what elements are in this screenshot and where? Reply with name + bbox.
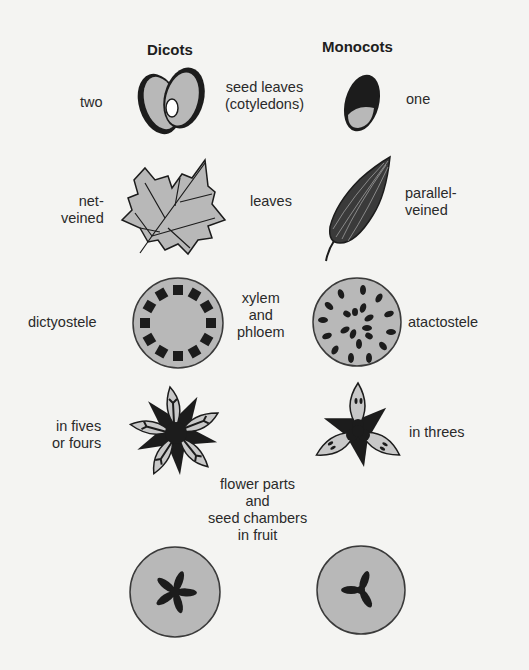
dicot-fruit-cross-section-icon bbox=[128, 545, 222, 639]
label-line: veined bbox=[405, 202, 457, 219]
label-line: seed chambers bbox=[208, 510, 307, 527]
monocot-fruit-cross-section-icon bbox=[315, 543, 407, 637]
xylem-phloem-feature-label: xylem and phloem bbox=[237, 290, 285, 341]
dicots-header: Dicots bbox=[147, 41, 193, 58]
flower-parts-feature-label: flower parts and seed chambers in fruit bbox=[208, 476, 307, 544]
seed-leaves-feature-label: seed leaves (cotyledons) bbox=[225, 79, 304, 113]
dicot-flower-icon bbox=[126, 383, 226, 483]
monocot-flower-parts-label: in threes bbox=[409, 424, 465, 441]
label-line: in threes bbox=[409, 424, 465, 441]
label-line: phloem bbox=[237, 324, 285, 341]
dictyostele-cross-section-icon bbox=[130, 275, 226, 371]
label-line: parallel- bbox=[405, 185, 457, 202]
label-line: net- bbox=[61, 193, 104, 210]
monocot-leaves-label: parallel- veined bbox=[405, 185, 457, 219]
monocot-stele-label: atactostele bbox=[408, 314, 478, 331]
net-veined-leaf-icon bbox=[120, 158, 230, 263]
label-line: flower parts bbox=[208, 476, 307, 493]
label-line: dictyostele bbox=[28, 314, 97, 331]
label-line: two bbox=[80, 94, 103, 111]
label-line: in fruit bbox=[208, 527, 307, 544]
atactostele-cross-section-icon bbox=[311, 274, 403, 370]
label-line: or fours bbox=[52, 435, 101, 452]
parallel-veined-leaf-icon bbox=[318, 155, 398, 265]
dicot-seed-leaves-label: two bbox=[80, 94, 103, 111]
leaves-feature-label: leaves bbox=[250, 193, 292, 210]
monocot-seed-leaves-label: one bbox=[406, 91, 430, 108]
label-line: and bbox=[208, 493, 307, 510]
monocot-cotyledon-icon bbox=[338, 68, 388, 138]
dicot-flower-parts-label: in fives or fours bbox=[52, 418, 101, 452]
dicot-stele-label: dictyostele bbox=[28, 314, 97, 331]
label-line: one bbox=[406, 91, 430, 108]
monocots-header: Monocots bbox=[322, 38, 393, 55]
label-line: veined bbox=[61, 210, 104, 227]
dicot-cotyledon-icon bbox=[132, 62, 212, 142]
dicot-leaves-label: net- veined bbox=[61, 193, 104, 227]
label-line: leaves bbox=[250, 193, 292, 210]
label-line: and bbox=[237, 307, 285, 324]
label-line: seed leaves bbox=[225, 79, 304, 96]
label-line: atactostele bbox=[408, 314, 478, 331]
label-line: xylem bbox=[237, 290, 285, 307]
label-line: in fives bbox=[52, 418, 101, 435]
label-line: (cotyledons) bbox=[225, 96, 304, 113]
monocot-flower-icon bbox=[313, 381, 403, 481]
